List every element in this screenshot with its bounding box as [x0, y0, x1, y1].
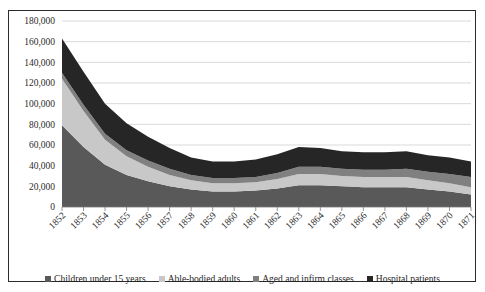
- legend-swatch-icon: [159, 276, 165, 282]
- x-axis-tick-label: 1861: [241, 210, 262, 231]
- x-axis-tick-label: 1870: [434, 210, 455, 231]
- chart-legend: Children under 15 yearsAble-bodied adult…: [0, 275, 485, 285]
- legend-swatch-icon: [367, 276, 373, 282]
- legend-item-0[interactable]: Children under 15 years: [45, 275, 146, 285]
- chart-frame: 020,00040,00060,00080,000100,000120,0001…: [8, 10, 476, 282]
- y-axis-tick-label: 160,000: [24, 37, 55, 47]
- x-axis-tick-label: 1865: [327, 210, 348, 231]
- x-axis-tick-label: 1854: [90, 210, 111, 231]
- legend-label: Hospital patients: [376, 275, 440, 285]
- x-axis: [62, 207, 471, 211]
- y-axis-tick-label: 0: [50, 202, 55, 212]
- y-axis-tick-labels: 020,00040,00060,00080,000100,000120,0001…: [24, 16, 55, 212]
- y-axis-tick-label: 80,000: [29, 120, 55, 130]
- area-series-group: [62, 39, 471, 207]
- x-axis-tick-label: 1853: [68, 210, 89, 231]
- legend-label: Able-bodied adults: [168, 275, 241, 285]
- x-axis-tick-label: 1857: [155, 210, 176, 231]
- x-axis-tick-label: 1862: [262, 210, 283, 231]
- legend-item-2[interactable]: Aged and infirm classes: [253, 275, 354, 285]
- y-axis-tick-label: 60,000: [29, 140, 55, 150]
- x-axis-tick-label: 1856: [133, 210, 154, 231]
- legend-label: Children under 15 years: [54, 275, 146, 285]
- x-axis-tick-label: 1864: [305, 210, 326, 231]
- x-axis-tick-label: 1860: [219, 210, 240, 231]
- x-axis-tick-label: 1867: [370, 210, 391, 231]
- y-axis-tick-label: 20,000: [29, 182, 55, 192]
- x-axis-tick-label: 1855: [111, 210, 132, 231]
- x-axis-tick-label: 1866: [348, 210, 369, 231]
- legend-item-3[interactable]: Hospital patients: [367, 275, 440, 285]
- legend-swatch-icon: [45, 276, 51, 282]
- x-axis-tick-label: 1859: [198, 210, 219, 231]
- x-axis-tick-label: 1871: [456, 210, 475, 231]
- y-axis-tick-label: 120,000: [24, 78, 55, 88]
- x-axis-tick-label: 1852: [47, 210, 68, 231]
- x-axis-tick-label: 1858: [176, 210, 197, 231]
- y-axis-tick-label: 100,000: [24, 99, 55, 109]
- x-axis-tick-label: 1863: [284, 210, 305, 231]
- stacked-area-chart: 020,00040,00060,00080,000100,000120,0001…: [9, 11, 475, 251]
- y-axis-tick-label: 140,000: [24, 58, 55, 68]
- legend-label: Aged and infirm classes: [262, 275, 354, 285]
- legend-item-1[interactable]: Able-bodied adults: [159, 275, 241, 285]
- x-axis-tick-label: 1869: [413, 210, 434, 231]
- y-axis-tick-label: 180,000: [24, 16, 55, 26]
- x-axis-tick-labels: 1852185318541855185618571858185918601861…: [47, 210, 475, 231]
- x-axis-tick-label: 1868: [391, 210, 412, 231]
- legend-swatch-icon: [253, 276, 259, 282]
- y-axis-tick-label: 40,000: [29, 161, 55, 171]
